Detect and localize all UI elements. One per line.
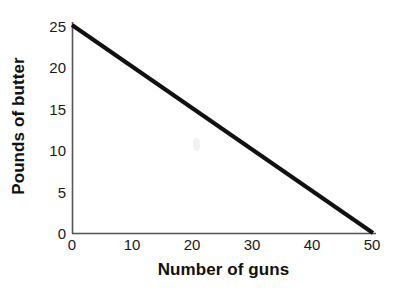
plot-area	[0, 0, 402, 294]
scan-artifact	[193, 138, 200, 151]
data-line-series-0	[72, 25, 373, 233]
chart-figure: Pounds of butter Number of guns 25 20 15…	[0, 0, 402, 294]
